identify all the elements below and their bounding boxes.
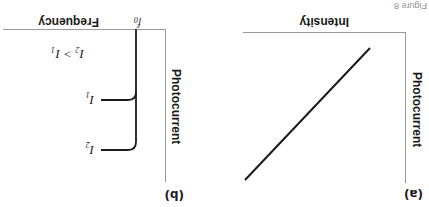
panel-a-line bbox=[243, 32, 406, 183]
figure-canvas: Figure 8 (a) Photocurrent Intensity (b) … bbox=[0, 0, 429, 207]
panel-b-label: (b) bbox=[164, 188, 184, 202]
intensity-relation-label: I₂ > I₁ bbox=[51, 46, 84, 62]
panel-a-label: (a) bbox=[404, 187, 423, 201]
panel-a-y-axis-label: Photocurrent bbox=[410, 72, 424, 147]
panel-b-curves bbox=[3, 29, 166, 182]
threshold-frequency-label: f0 bbox=[134, 15, 141, 30]
panel-a-x-axis-label: Intensity bbox=[300, 15, 349, 29]
panel-b-x-axis-label: Frequency bbox=[38, 15, 99, 29]
curve-i1-label: I1 bbox=[86, 90, 94, 108]
figure-caption: Figure 8 bbox=[394, 1, 427, 11]
panel-b-y-axis-label: Photocurrent bbox=[169, 69, 183, 144]
curve-i2-label: I2 bbox=[86, 140, 94, 158]
